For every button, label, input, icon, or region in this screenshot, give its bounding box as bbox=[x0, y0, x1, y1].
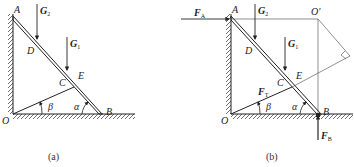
point-c-label: C bbox=[277, 77, 284, 88]
ladder-ab bbox=[231, 16, 321, 114]
point-a-label: A bbox=[231, 4, 239, 15]
point-d-label: D bbox=[244, 45, 253, 56]
point-e-label: E bbox=[77, 70, 84, 81]
force-fb-label: FB bbox=[320, 130, 332, 142]
force-g1-label: G1 bbox=[288, 38, 298, 50]
point-a-label: A bbox=[13, 4, 21, 15]
wall-hatch bbox=[226, 14, 231, 114]
ladder-ab bbox=[13, 16, 102, 114]
angle-alpha-label: α bbox=[74, 101, 80, 112]
angle-alpha-arc bbox=[82, 102, 88, 114]
wall-hatch bbox=[8, 14, 13, 114]
angle-alpha-arc bbox=[300, 102, 306, 114]
point-o-label: O bbox=[2, 115, 9, 126]
point-o-label: O bbox=[221, 115, 228, 126]
ground-hatch bbox=[13, 114, 135, 119]
angle-beta-label: β bbox=[265, 101, 271, 112]
support-b-marker bbox=[316, 113, 320, 117]
point-b-label: B bbox=[323, 106, 329, 117]
point-o-prime-label: O′ bbox=[311, 6, 321, 17]
ground-hatch bbox=[231, 114, 353, 119]
force-g1-label: G1 bbox=[70, 38, 80, 50]
angle-beta-label: β bbox=[47, 101, 53, 112]
force-fa-label: FA bbox=[193, 7, 206, 19]
perpendicular-line bbox=[318, 19, 350, 56]
force-g2-label: G2 bbox=[258, 5, 268, 17]
force-g2-label: G2 bbox=[40, 5, 50, 17]
figure-b: A B C D E O O′ FA G2 G1 FT FB β α (b) bbox=[181, 4, 353, 163]
rope-oc bbox=[13, 87, 74, 114]
point-e-label: E bbox=[295, 70, 302, 81]
angle-alpha-label: α bbox=[292, 101, 298, 112]
right-angle-mark bbox=[341, 51, 346, 59]
force-ft-label: FT bbox=[257, 86, 269, 98]
caption-a: (a) bbox=[48, 151, 59, 163]
caption-b: (b) bbox=[266, 151, 278, 163]
angle-beta-arc bbox=[258, 102, 260, 114]
point-b-label: B bbox=[106, 106, 112, 117]
figure-a: A B C D E O G2 G1 β α (a) bbox=[2, 4, 135, 163]
angle-beta-arc bbox=[40, 102, 42, 114]
point-d-label: D bbox=[26, 45, 35, 56]
point-c-label: C bbox=[59, 77, 66, 88]
